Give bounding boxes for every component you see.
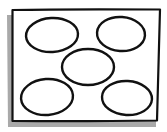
sketch-diagram [0, 0, 167, 132]
frame-rectangle [13, 9, 161, 121]
